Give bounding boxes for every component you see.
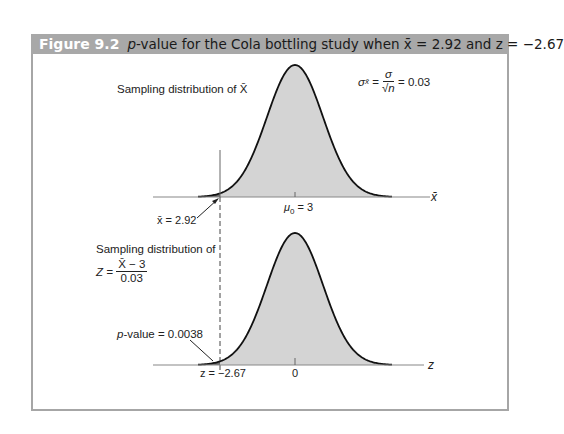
xbar-callout: x̄ = 2.92	[157, 214, 196, 226]
top-panel-label: Sampling distribution of X̄	[117, 83, 247, 95]
pvalue-label: p-value = 0.0038	[117, 328, 203, 340]
top-axis-label: x̄	[431, 190, 437, 204]
z-formula: Z = X̄ − 30.03	[96, 258, 147, 285]
bottom-axis-label: z	[428, 358, 434, 372]
pvalue-callout-arrow	[190, 340, 213, 361]
zero-label: 0	[292, 367, 298, 379]
sigma-formula: σx̄ = σ√n = 0.03	[358, 68, 430, 95]
bottom-normal-curve	[198, 233, 392, 365]
z-callout: z = −2.67	[200, 367, 246, 379]
mean-label: μ0 = 3	[284, 201, 313, 216]
bottom-panel-label: Sampling distribution of	[96, 243, 216, 255]
